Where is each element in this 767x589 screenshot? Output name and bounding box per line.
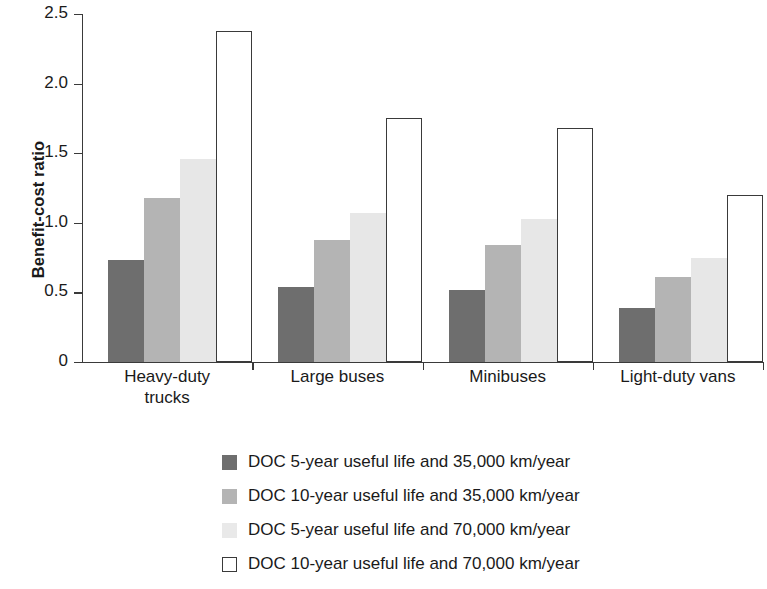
y-axis-tick-label: 1.5: [22, 142, 68, 162]
bar: [278, 287, 314, 362]
bar: [216, 31, 252, 362]
y-axis-tick: 1.5: [74, 153, 82, 154]
legend-swatch-icon: [222, 455, 237, 470]
y-axis-tick-label: 2.5: [22, 3, 68, 23]
legend-swatch-icon: [222, 523, 237, 538]
bar: [314, 240, 350, 362]
legend-item: DOC 5-year useful life and 35,000 km/yea…: [222, 445, 742, 479]
y-axis-tick: 2.5: [74, 14, 82, 15]
x-axis-group-label: Large buses: [252, 366, 422, 387]
y-axis-tick-label: 2.0: [22, 73, 68, 93]
bar: [557, 128, 593, 362]
x-axis-tick: [763, 362, 764, 370]
bar: [144, 198, 180, 362]
legend-swatch-icon: [222, 489, 237, 504]
x-axis-group-label-line: Light-duty vans: [593, 366, 763, 387]
y-axis-tick: 1.0: [74, 223, 82, 224]
y-axis-tick: 0: [74, 362, 82, 363]
bar: [449, 290, 485, 362]
y-axis-line: [82, 14, 83, 363]
bar: [108, 260, 144, 362]
bar: [655, 277, 691, 362]
y-axis-tick-label: 0.5: [22, 281, 68, 301]
legend-item-label: DOC 10-year useful life and 70,000 km/ye…: [248, 554, 580, 574]
x-axis-group-label: Light-duty vans: [593, 366, 763, 387]
bar: [691, 258, 727, 362]
chart-legend: DOC 5-year useful life and 35,000 km/yea…: [222, 445, 742, 581]
bar: [619, 308, 655, 362]
legend-item: DOC 10-year useful life and 35,000 km/ye…: [222, 479, 742, 513]
bar-chart-figure: Benefit-cost ratio 00.51.01.52.02.5 Heav…: [0, 0, 767, 589]
bar: [350, 213, 386, 362]
bar: [180, 159, 216, 362]
legend-item-label: DOC 5-year useful life and 70,000 km/yea…: [248, 520, 570, 540]
legend-swatch-icon: [222, 557, 237, 572]
y-axis-tick-label: 0: [22, 351, 68, 371]
bar: [386, 118, 422, 362]
bar: [521, 219, 557, 362]
bar: [485, 245, 521, 362]
y-axis-tick-label: 1.0: [22, 212, 68, 232]
legend-item-label: DOC 5-year useful life and 35,000 km/yea…: [248, 452, 570, 472]
y-axis-tick: 0.5: [74, 292, 82, 293]
x-axis-group-label-line: trucks: [82, 387, 252, 408]
legend-item: DOC 10-year useful life and 70,000 km/ye…: [222, 547, 742, 581]
plot-area: 00.51.01.52.02.5: [82, 14, 763, 362]
bar: [727, 195, 763, 362]
x-axis-group-label-line: Minibuses: [423, 366, 593, 387]
x-axis-group-label-line: Large buses: [252, 366, 422, 387]
y-axis-tick: 2.0: [74, 84, 82, 85]
legend-item-label: DOC 10-year useful life and 35,000 km/ye…: [248, 486, 580, 506]
x-axis-group-label-line: Heavy-duty: [82, 366, 252, 387]
x-axis-group-label: Heavy-dutytrucks: [82, 366, 252, 408]
legend-item: DOC 5-year useful life and 70,000 km/yea…: [222, 513, 742, 547]
x-axis-group-label: Minibuses: [423, 366, 593, 387]
